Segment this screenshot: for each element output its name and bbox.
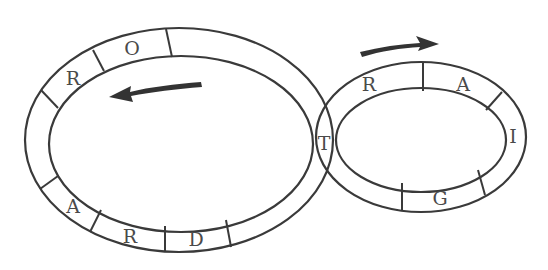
two-loop-letter-diagram: R O A R D T R A I G (0, 0, 548, 270)
letter-cell-o: O (124, 37, 140, 59)
arrow-right-icon (360, 36, 439, 57)
letter-cell-r-small: R (362, 73, 377, 95)
large-track-divider (166, 29, 172, 57)
letter-cell-t-shared: T (318, 132, 331, 154)
large-track-inner-ring (49, 56, 313, 232)
small-track-divider (486, 92, 502, 110)
letter-cell-a-bottom: A (65, 195, 80, 217)
letter-cell-r-bottom: R (123, 225, 138, 247)
letter-cell-d: D (188, 228, 203, 250)
arrow-left-icon (109, 82, 202, 102)
letter-cell-a-small: A (455, 73, 470, 95)
letter-cell-i: I (509, 125, 517, 147)
small-track (316, 62, 526, 212)
small-track-outer-ring (316, 62, 526, 212)
large-track-outer-ring (25, 28, 333, 252)
large-track-divider (90, 210, 101, 232)
counterclockwise-arrow-icon (109, 82, 202, 102)
large-track-divider (93, 50, 104, 71)
large-track-divider (40, 176, 58, 189)
clockwise-arrow-icon (360, 36, 439, 57)
letter-cell-g: G (432, 187, 447, 209)
large-track (25, 28, 333, 252)
diagram-canvas: R O A R D T R A I G (0, 0, 548, 270)
large-track-divider (41, 90, 58, 108)
large-track-divider (226, 220, 231, 247)
letter-cell-r-top: R (66, 67, 81, 89)
